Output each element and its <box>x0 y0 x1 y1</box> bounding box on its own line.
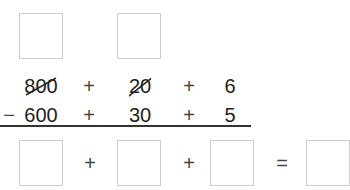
answer-box-total[interactable] <box>306 140 350 186</box>
struck-number: 800 <box>24 74 57 98</box>
minuend-hundreds-value: 800 <box>24 75 57 97</box>
subtraction-rule-line <box>0 125 251 127</box>
answer-box-hundreds[interactable] <box>19 140 63 186</box>
subtrahend-hundreds: 600 <box>24 103 57 127</box>
plus-operator: + <box>84 151 96 175</box>
minuend-ones: 6 <box>224 74 235 98</box>
struck-number: 20 <box>129 74 151 98</box>
regroup-box-tens[interactable] <box>117 13 161 59</box>
plus-operator: + <box>83 103 95 127</box>
answer-box-tens[interactable] <box>117 140 161 186</box>
minuend-hundreds: 800 <box>24 74 57 98</box>
minuend-tens: 20 <box>129 74 151 98</box>
plus-operator: + <box>83 74 95 98</box>
plus-operator: + <box>183 151 195 175</box>
equals-operator: = <box>276 151 288 175</box>
minus-sign: − <box>3 103 15 127</box>
subtrahend-tens: 30 <box>129 103 151 127</box>
regroup-box-hundreds[interactable] <box>19 13 63 59</box>
plus-operator: + <box>183 103 195 127</box>
plus-operator: + <box>183 74 195 98</box>
answer-box-ones[interactable] <box>210 140 254 186</box>
minuend-tens-value: 20 <box>129 75 151 97</box>
subtrahend-ones: 5 <box>224 103 235 127</box>
